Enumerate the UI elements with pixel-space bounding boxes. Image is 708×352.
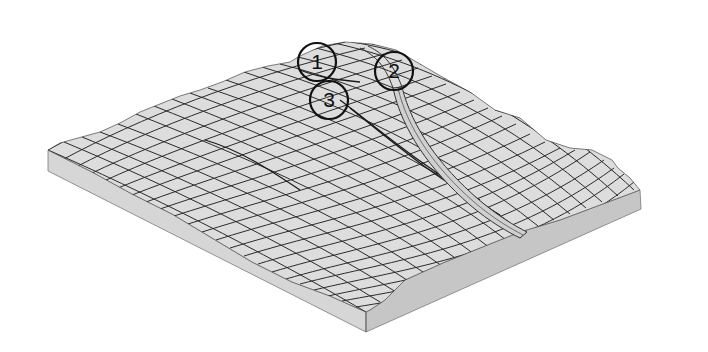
terrain-block-diagram: 1 2 3 xyxy=(0,0,708,352)
callout-label-1: 1 xyxy=(311,50,323,73)
callout-label-2: 2 xyxy=(388,59,400,82)
callout-label-3: 3 xyxy=(323,88,335,111)
